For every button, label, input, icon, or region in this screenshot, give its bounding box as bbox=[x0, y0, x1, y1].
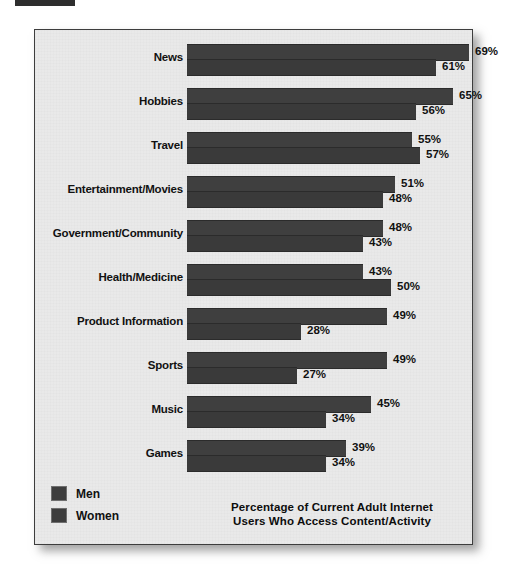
bar-value-label: 48% bbox=[389, 191, 412, 206]
chart-group: News69%61% bbox=[35, 38, 474, 82]
bar-row-women: 61% bbox=[187, 59, 474, 74]
chart-group: Government/Community48%43% bbox=[35, 214, 474, 258]
bar-row-men: 55% bbox=[187, 132, 474, 147]
bar-value-label: 34% bbox=[332, 455, 355, 470]
category-label: Games bbox=[35, 447, 183, 459]
category-label: Music bbox=[35, 403, 183, 415]
category-label: Health/Medicine bbox=[35, 271, 183, 283]
bar-pair: 48%43% bbox=[187, 220, 474, 250]
bar-pair: 45%34% bbox=[187, 396, 474, 426]
bar-row-women: 34% bbox=[187, 411, 474, 426]
bar-row-men: 65% bbox=[187, 88, 474, 103]
bar-row-women: 43% bbox=[187, 235, 474, 250]
legend-item-men: Men bbox=[51, 486, 201, 501]
bar-row-women: 50% bbox=[187, 279, 474, 294]
caption-line: Percentage of Current Adult Internet bbox=[203, 500, 461, 514]
bar-row-men: 51% bbox=[187, 176, 474, 191]
category-label: News bbox=[35, 51, 183, 63]
category-label: Sports bbox=[35, 359, 183, 371]
bar-women bbox=[187, 235, 363, 252]
bar-row-men: 48% bbox=[187, 220, 474, 235]
bar-pair: 49%28% bbox=[187, 308, 474, 338]
chart-plot-area: News69%61%Hobbies65%56%Travel55%57%Enter… bbox=[35, 38, 474, 478]
chart-group: Travel55%57% bbox=[35, 126, 474, 170]
page-top-rule bbox=[15, 0, 75, 6]
chart-group: Health/Medicine43%50% bbox=[35, 258, 474, 302]
chart-group: Hobbies65%56% bbox=[35, 82, 474, 126]
bar-pair: 55%57% bbox=[187, 132, 474, 162]
category-label: Hobbies bbox=[35, 95, 183, 107]
category-label: Government/Community bbox=[35, 227, 183, 239]
bar-pair: 39%34% bbox=[187, 440, 474, 470]
bar-women bbox=[187, 191, 383, 208]
bar-value-label: 34% bbox=[332, 411, 355, 426]
caption-line: Users Who Access Content/Activity bbox=[203, 514, 461, 528]
bar-women bbox=[187, 455, 326, 472]
bar-value-label: 48% bbox=[389, 220, 412, 235]
bar-row-men: 49% bbox=[187, 352, 474, 367]
bar-value-label: 55% bbox=[418, 132, 441, 147]
bar-row-men: 45% bbox=[187, 396, 474, 411]
bar-value-label: 39% bbox=[352, 440, 375, 455]
bar-value-label: 50% bbox=[397, 279, 420, 294]
chart-panel: News69%61%Hobbies65%56%Travel55%57%Enter… bbox=[34, 29, 473, 545]
bar-pair: 69%61% bbox=[187, 44, 474, 74]
category-label: Product Information bbox=[35, 315, 183, 327]
chart-group: Product Information49%28% bbox=[35, 302, 474, 346]
bar-row-women: 57% bbox=[187, 147, 474, 162]
bar-pair: 49%27% bbox=[187, 352, 474, 382]
bar-row-women: 34% bbox=[187, 455, 474, 470]
legend-swatch-women bbox=[51, 508, 67, 523]
bar-row-men: 43% bbox=[187, 264, 474, 279]
bar-women bbox=[187, 411, 326, 428]
legend-item-women: Women bbox=[51, 508, 201, 523]
chart-group: Entertainment/Movies51%48% bbox=[35, 170, 474, 214]
category-label: Entertainment/Movies bbox=[35, 183, 183, 195]
chart-group: Music45%34% bbox=[35, 390, 474, 434]
bar-value-label: 28% bbox=[307, 323, 330, 338]
bar-row-women: 28% bbox=[187, 323, 474, 338]
bar-women bbox=[187, 323, 301, 340]
bar-value-label: 69% bbox=[475, 44, 498, 59]
bar-row-men: 39% bbox=[187, 440, 474, 455]
bar-row-women: 27% bbox=[187, 367, 474, 382]
bar-value-label: 56% bbox=[422, 103, 445, 118]
bar-pair: 51%48% bbox=[187, 176, 474, 206]
bar-women bbox=[187, 59, 436, 76]
bar-pair: 65%56% bbox=[187, 88, 474, 118]
bar-women bbox=[187, 279, 391, 296]
chart-group: Games39%34% bbox=[35, 434, 474, 478]
bar-women bbox=[187, 103, 416, 120]
bar-value-label: 45% bbox=[377, 396, 400, 411]
bar-value-label: 49% bbox=[393, 352, 416, 367]
bar-row-women: 48% bbox=[187, 191, 474, 206]
bar-row-women: 56% bbox=[187, 103, 474, 118]
category-label: Travel bbox=[35, 139, 183, 151]
bar-value-label: 57% bbox=[426, 147, 449, 162]
bar-value-label: 49% bbox=[393, 308, 416, 323]
chart-group: Sports49%27% bbox=[35, 346, 474, 390]
bar-women bbox=[187, 147, 420, 164]
legend-label: Women bbox=[76, 509, 119, 523]
bar-value-label: 43% bbox=[369, 264, 392, 279]
bar-value-label: 65% bbox=[459, 88, 482, 103]
legend-swatch-men bbox=[51, 486, 67, 501]
legend-label: Men bbox=[76, 487, 100, 501]
chart-caption-title: Percentage of Current Adult InternetUser… bbox=[203, 500, 461, 528]
bar-value-label: 43% bbox=[369, 235, 392, 250]
bar-row-men: 49% bbox=[187, 308, 474, 323]
bar-value-label: 61% bbox=[442, 59, 465, 74]
bar-row-men: 69% bbox=[187, 44, 474, 59]
bar-pair: 43%50% bbox=[187, 264, 474, 294]
bar-value-label: 27% bbox=[303, 367, 326, 382]
bar-value-label: 51% bbox=[401, 176, 424, 191]
bar-women bbox=[187, 367, 297, 384]
chart-legend: MenWomen bbox=[51, 486, 201, 530]
